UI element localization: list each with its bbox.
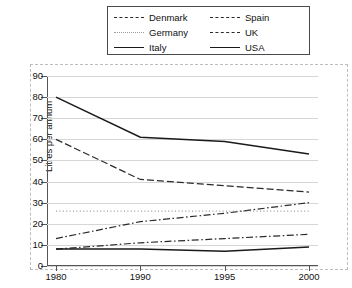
data-lines xyxy=(47,76,318,266)
series-line-denmark xyxy=(56,203,309,239)
legend-line-uk-icon xyxy=(210,29,240,37)
legend-item-germany: Germany xyxy=(114,28,210,38)
y-axis-tick-label: 30 xyxy=(19,198,43,208)
series-line-italy xyxy=(56,97,309,154)
chart-plot-area: Litres per annum 0102030405060708090 198… xyxy=(47,76,318,266)
x-axis-tick-label: 1990 xyxy=(117,272,163,282)
legend-item-usa: USA xyxy=(210,43,306,53)
legend-label-italy: Italy xyxy=(149,43,166,53)
x-axis-tick-label: 2000 xyxy=(286,272,332,282)
y-axis-tick-label: 80 xyxy=(19,92,43,102)
legend-line-spain-icon xyxy=(210,14,240,22)
gridline xyxy=(47,266,318,267)
y-axis-tick-label: 90 xyxy=(19,71,43,81)
y-axis-tick-label: 10 xyxy=(19,240,43,250)
legend-label-germany: Germany xyxy=(149,28,188,38)
chart-screenshot: Denmark Spain Germany UK Italy USA xyxy=(0,0,352,288)
legend-line-usa-icon xyxy=(210,44,240,52)
legend-line-denmark-icon xyxy=(114,14,144,22)
legend-line-italy-icon xyxy=(114,44,144,52)
y-axis-tick-label: 0 xyxy=(19,261,43,271)
legend-label-usa: USA xyxy=(245,43,265,53)
legend-label-uk: UK xyxy=(245,28,258,38)
y-axis-tick-label: 60 xyxy=(19,134,43,144)
x-axis-tick-label: 1995 xyxy=(202,272,248,282)
legend-label-denmark: Denmark xyxy=(149,13,188,23)
legend-label-spain: Spain xyxy=(245,13,269,23)
series-line-uk xyxy=(56,234,309,249)
legend-item-italy: Italy xyxy=(114,43,210,53)
y-axis-tick-label: 40 xyxy=(19,177,43,187)
legend-item-uk: UK xyxy=(210,28,306,38)
y-axis-tick-label: 20 xyxy=(19,219,43,229)
y-axis-tick-label: 50 xyxy=(19,155,43,165)
legend-line-germany-icon xyxy=(114,29,144,37)
legend-item-denmark: Denmark xyxy=(114,13,210,23)
series-line-usa xyxy=(56,247,309,251)
x-axis-tick-label: 1980 xyxy=(33,272,79,282)
legend-item-spain: Spain xyxy=(210,13,306,23)
series-line-spain xyxy=(56,139,309,192)
chart-legend: Denmark Spain Germany UK Italy USA xyxy=(107,6,310,55)
y-axis-tick-label: 70 xyxy=(19,113,43,123)
